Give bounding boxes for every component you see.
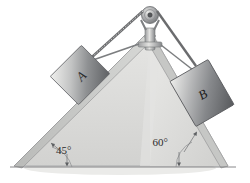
inclined-plane-pulley-figure: A B 45° 60° xyxy=(0,0,250,183)
pulley-collar xyxy=(138,42,162,47)
figure-canvas: A B 45° 60° xyxy=(0,0,250,183)
angle-left-label: 45° xyxy=(56,144,71,156)
pulley-axle xyxy=(148,13,152,17)
angle-right-label: 60° xyxy=(153,136,168,148)
